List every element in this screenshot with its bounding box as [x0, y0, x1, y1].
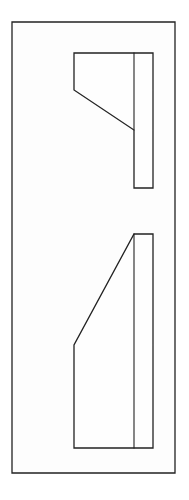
drawing-canvas: [0, 0, 189, 500]
line-drawing-figure: [0, 0, 189, 500]
